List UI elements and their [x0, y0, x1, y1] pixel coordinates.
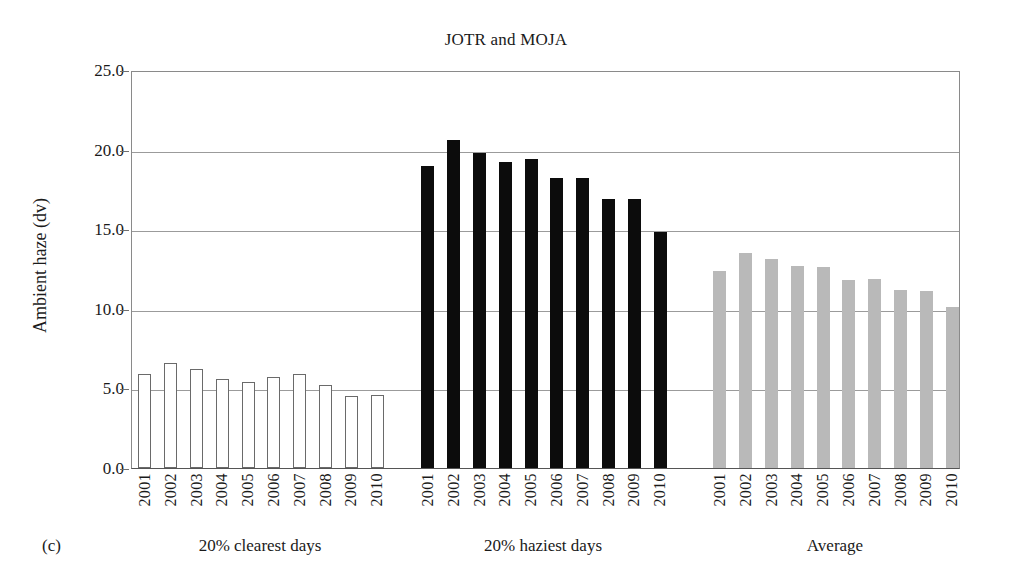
- bar-clearest-2003: [190, 369, 203, 468]
- y-axis-tick-mark: [120, 151, 129, 152]
- bar-average-2001: [713, 271, 726, 468]
- y-axis-tick-mark: [120, 310, 129, 311]
- x-axis-year-label: 2002: [162, 473, 180, 507]
- bar-clearest-2009: [345, 396, 358, 468]
- x-axis-year-label: 2008: [600, 473, 618, 507]
- x-axis-year-label: 2001: [419, 473, 437, 507]
- bar-haziest-2003: [473, 153, 486, 468]
- x-axis-year-label: 2005: [239, 473, 257, 507]
- y-axis-tick-mark: [120, 469, 129, 470]
- x-axis-year-label: 2003: [471, 473, 489, 507]
- x-axis-year-label: 2009: [342, 473, 360, 507]
- bar-clearest-2005: [242, 382, 255, 468]
- gridline: [132, 390, 959, 391]
- x-axis-year-label: 2009: [625, 473, 643, 507]
- bar-clearest-2001: [138, 374, 151, 468]
- bar-clearest-2008: [319, 385, 332, 468]
- bar-haziest-2010: [654, 232, 667, 468]
- bar-haziest-2006: [550, 178, 563, 468]
- bar-average-2007: [868, 279, 881, 468]
- bar-haziest-2002: [447, 140, 460, 468]
- bar-clearest-2004: [216, 379, 229, 468]
- bar-average-2005: [817, 267, 830, 468]
- bar-haziest-2009: [628, 199, 641, 468]
- x-axis-year-label: 2007: [291, 473, 309, 507]
- bar-haziest-2007: [576, 178, 589, 468]
- x-axis-year-label: 2010: [943, 473, 961, 507]
- bar-haziest-2004: [499, 162, 512, 468]
- x-axis-year-label: 2008: [317, 473, 335, 507]
- bar-average-2008: [894, 290, 907, 468]
- x-axis-year-label: 2008: [892, 473, 910, 507]
- x-axis-year-label: 2005: [522, 473, 540, 507]
- gridline: [132, 231, 959, 232]
- gridline: [132, 152, 959, 153]
- bar-haziest-2005: [525, 159, 538, 468]
- x-axis-year-label: 2006: [265, 473, 283, 507]
- x-axis-year-label: 2001: [711, 473, 729, 507]
- x-axis-year-label: 2003: [763, 473, 781, 507]
- y-axis-tick-marks: [0, 71, 131, 469]
- x-axis-year-labels: 2001200220032004200520062007200820092010…: [131, 469, 960, 531]
- x-axis-year-label: 2006: [548, 473, 566, 507]
- x-axis-year-label: 2003: [188, 473, 206, 507]
- y-axis-tick-mark: [120, 71, 129, 72]
- x-axis-year-label: 2004: [496, 473, 514, 507]
- bar-clearest-2010: [371, 395, 384, 468]
- x-axis-year-label: 2002: [445, 473, 463, 507]
- bar-average-2004: [791, 266, 804, 468]
- x-axis-year-label: 2004: [213, 473, 231, 507]
- y-axis-tick-mark: [120, 389, 129, 390]
- figure: JOTR and MOJA Ambient haze (dv) 0.05.010…: [0, 0, 1012, 575]
- bar-average-2003: [765, 259, 778, 468]
- x-axis-year-label: 2010: [368, 473, 386, 507]
- bar-haziest-2001: [421, 166, 434, 468]
- chart-title: JOTR and MOJA: [0, 30, 1012, 50]
- y-axis-tick-mark: [120, 230, 129, 231]
- x-axis-year-label: 2006: [840, 473, 858, 507]
- group-label-average: Average: [705, 536, 965, 556]
- panel-label: (c): [42, 536, 61, 556]
- group-label-haziest: 20% haziest days: [413, 536, 673, 556]
- bar-average-2006: [842, 280, 855, 468]
- x-axis-year-label: 2007: [866, 473, 884, 507]
- x-axis-year-label: 2004: [788, 473, 806, 507]
- x-axis-year-label: 2002: [737, 473, 755, 507]
- x-axis-year-label: 2001: [136, 473, 154, 507]
- bar-average-2009: [920, 291, 933, 468]
- x-axis-year-label: 2005: [814, 473, 832, 507]
- bar-clearest-2006: [267, 377, 280, 468]
- bar-clearest-2007: [293, 374, 306, 468]
- plot-area: [131, 71, 960, 469]
- x-axis-year-label: 2009: [917, 473, 935, 507]
- x-axis-year-label: 2007: [574, 473, 592, 507]
- gridline: [132, 311, 959, 312]
- group-label-clearest: 20% clearest days: [130, 536, 390, 556]
- bar-clearest-2002: [164, 363, 177, 468]
- x-axis-year-label: 2010: [651, 473, 669, 507]
- bar-haziest-2008: [602, 199, 615, 468]
- bar-average-2010: [946, 307, 959, 468]
- bar-average-2002: [739, 253, 752, 468]
